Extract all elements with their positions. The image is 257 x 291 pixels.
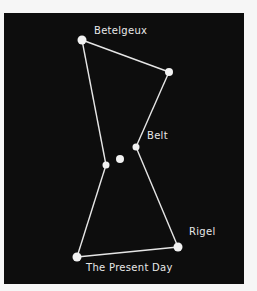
label-rigel: Rigel	[189, 226, 216, 237]
star-belt-2-icon	[116, 155, 124, 163]
star-rigel-icon	[174, 243, 183, 252]
star-belt-1-icon	[133, 144, 140, 151]
star-bellatrix-icon	[165, 68, 173, 76]
label-belt: Belt	[147, 130, 168, 141]
line-belt-rigel	[136, 147, 178, 247]
line-saiph-belt	[77, 165, 106, 257]
line-betelgeux-bellatrix	[82, 40, 169, 72]
star-belt-3-icon	[103, 162, 110, 169]
stars	[73, 36, 183, 262]
caption: The Present Day	[86, 262, 173, 273]
label-betelgeux: Betelgeux	[94, 25, 147, 36]
line-belt-betelgeux	[82, 40, 106, 165]
star-saiph-icon	[73, 253, 82, 262]
constellation-diagram	[0, 0, 257, 291]
line-rigel-saiph	[77, 247, 178, 257]
star-betelgeux-icon	[78, 36, 87, 45]
constellation-lines	[77, 40, 178, 257]
